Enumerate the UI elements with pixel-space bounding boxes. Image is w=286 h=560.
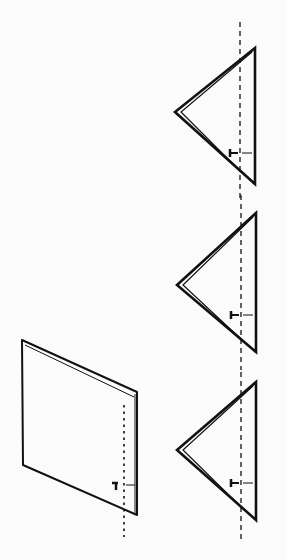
- folded-triangle-1: [175, 48, 255, 184]
- triangle-inner-fold-1: [181, 52, 252, 172]
- folding-diagram: [0, 0, 286, 560]
- sheet-inner-edge: [25, 345, 134, 397]
- diagram-canvas: [0, 0, 286, 560]
- triangle-inner-fold-3: [183, 386, 253, 508]
- folded-triangle-3: [177, 382, 256, 520]
- folded-sheet: [22, 340, 137, 515]
- triangle-inner-fold-2: [183, 217, 253, 340]
- folded-triangle-2: [177, 213, 256, 352]
